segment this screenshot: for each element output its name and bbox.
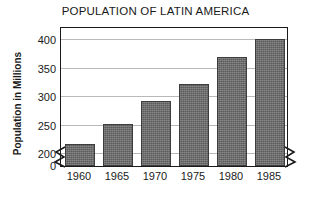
x-tick-label: 1960 xyxy=(60,170,98,182)
bar xyxy=(179,84,209,166)
bars-series xyxy=(61,28,287,166)
bar xyxy=(255,39,285,166)
y-axis-title: Population in Millions xyxy=(12,34,23,174)
x-tick-label: 1975 xyxy=(174,170,212,182)
y-tick-label: 350 xyxy=(26,64,56,75)
x-axis-tick-labels: 196019651970197519801985 xyxy=(60,170,288,190)
y-tick-label: 250 xyxy=(26,121,56,132)
x-tick-label: 1985 xyxy=(250,170,288,182)
x-tick-label: 1970 xyxy=(136,170,174,182)
axis-break-zigzag-icon-right xyxy=(282,146,298,168)
bar xyxy=(103,124,133,166)
bar-chart-figure: POPULATION OF LATIN AMERICA Population i… xyxy=(0,0,311,197)
plot-area xyxy=(60,27,288,167)
bar xyxy=(65,144,95,166)
bar xyxy=(141,101,171,166)
axis-break-zigzag-icon-left xyxy=(52,146,68,168)
y-axis-tick-labels: 0200250300350400 xyxy=(22,0,56,197)
y-tick-label: 300 xyxy=(26,92,56,103)
x-tick-label: 1980 xyxy=(212,170,250,182)
y-tick-label: 400 xyxy=(26,35,56,46)
bar xyxy=(217,57,247,166)
x-tick-label: 1965 xyxy=(98,170,136,182)
